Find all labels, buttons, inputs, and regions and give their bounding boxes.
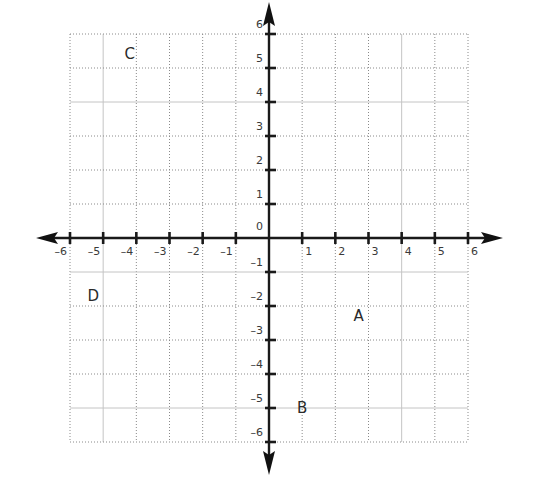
x-tick-label: –3 — [154, 245, 167, 258]
y-tick-label: –5 — [251, 392, 264, 405]
origin-label: 0 — [256, 220, 263, 233]
point-label-c: C — [124, 45, 134, 63]
x-tick-label: –1 — [220, 245, 233, 258]
point-label-d: D — [87, 287, 99, 305]
y-tick-label: –4 — [251, 358, 264, 371]
x-tick-label: –6 — [55, 245, 68, 258]
y-tick-label: –1 — [251, 256, 264, 269]
x-tick-label: 2 — [338, 245, 345, 258]
point-label-b: B — [297, 399, 307, 417]
x-tick-label: –2 — [187, 245, 200, 258]
y-tick-label: 3 — [256, 120, 263, 133]
y-tick-label: 2 — [256, 154, 263, 167]
point-label-a: A — [353, 307, 364, 325]
x-tick-label: 3 — [372, 245, 379, 258]
y-tick-label: 6 — [256, 18, 263, 31]
point-labels: ABCD — [87, 45, 364, 417]
x-tick-label: –5 — [88, 245, 101, 258]
x-tick-label: 4 — [405, 245, 412, 258]
x-tick-label: –4 — [121, 245, 134, 258]
y-tick-label: –3 — [251, 324, 264, 337]
y-tick-label: –6 — [251, 426, 264, 439]
y-tick-label: 1 — [256, 188, 263, 201]
y-tick-label: –2 — [251, 290, 264, 303]
x-tick-label: 5 — [438, 245, 445, 258]
x-tick-label: 6 — [471, 245, 478, 258]
y-tick-label: 4 — [256, 86, 263, 99]
y-tick-label: 5 — [256, 52, 263, 65]
axes — [36, 2, 503, 475]
coordinate-plane: 0 –6–5–4–3–2–1123456–6–5–4–3–2–1123456 A… — [0, 0, 535, 501]
axis-tick-labels: 0 –6–5–4–3–2–1123456–6–5–4–3–2–1123456 — [55, 18, 479, 439]
x-tick-label: 1 — [305, 245, 312, 258]
